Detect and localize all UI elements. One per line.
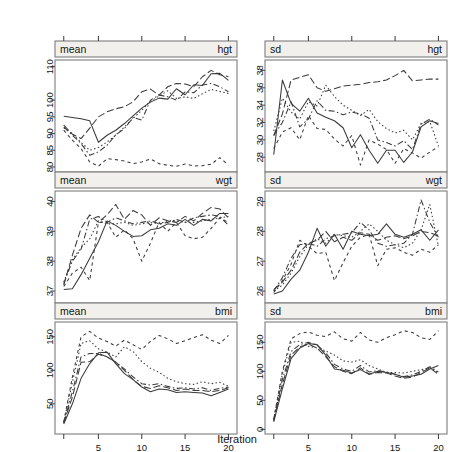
strip-label-left-mean-hgt: mean (60, 43, 86, 55)
ytick-label-sd-bmi-1: 50 (254, 395, 265, 406)
panel-mean-wgt: meanwgt37383940 (44, 172, 237, 303)
xtick-label-sd-bmi-2: 15 (390, 442, 401, 452)
ytick-label-mean-hgt-1: 85 (44, 145, 55, 156)
xtick-label-mean-bmi-1: 10 (136, 442, 147, 452)
ytick-label-mean-wgt-1: 38 (44, 256, 55, 267)
ytick-label-mean-wgt-2: 39 (44, 226, 55, 237)
xtick-label-sd-bmi-0: 5 (306, 442, 311, 452)
strip-label-left-mean-wgt: mean (60, 174, 86, 186)
ytick-label-sd-wgt-3: 29 (254, 196, 265, 207)
panel-mean-bmi: meanbmi501001505101520 (44, 303, 237, 452)
panel-sd-wgt: sdwgt26272829 (254, 172, 447, 303)
trellis-figure: meanhgt80859095100110sdhgt283032343638me… (0, 0, 474, 452)
ytick-label-mean-hgt-5: 110 (44, 59, 55, 74)
strip-label-right-mean-bmi: bmi (215, 305, 232, 317)
strip-header-sd-wgt (265, 172, 447, 188)
panel-sd-hgt: sdhgt283032343638 (254, 36, 447, 172)
ytick-label-mean-wgt-0: 37 (44, 286, 55, 297)
strip-label-left-sd-wgt: sd (270, 174, 281, 186)
panel-frame-mean-bmi (55, 322, 237, 434)
ytick-label-sd-wgt-1: 27 (254, 256, 265, 267)
ytick-label-sd-hgt-2: 32 (254, 117, 265, 128)
panel-frame-mean-hgt (55, 60, 237, 172)
ytick-label-mean-hgt-4: 100 (44, 92, 55, 108)
ytick-label-sd-bmi-2: 100 (254, 363, 265, 379)
ytick-label-sd-wgt-0: 26 (254, 286, 265, 297)
panel-frame-sd-hgt (265, 60, 447, 172)
strip-header-sd-bmi (265, 303, 447, 319)
strip-label-right-sd-wgt: wgt (425, 174, 442, 186)
strip-label-left-sd-bmi: sd (270, 305, 281, 317)
ytick-label-mean-wgt-3: 40 (44, 196, 55, 207)
panel-sd-bmi: sdbmi0501001505101520 (254, 303, 447, 452)
ytick-label-mean-hgt-2: 90 (44, 128, 55, 139)
ytick-label-mean-bmi-1: 100 (44, 362, 55, 378)
strip-header-sd-hgt (265, 41, 447, 57)
xtick-label-sd-bmi-1: 10 (346, 442, 357, 452)
ytick-label-sd-bmi-3: 150 (254, 334, 265, 350)
ytick-label-sd-hgt-3: 34 (254, 100, 265, 111)
xtick-label-sd-bmi-3: 20 (433, 442, 444, 452)
strip-label-right-sd-bmi: bmi (425, 305, 442, 317)
ytick-label-sd-hgt-4: 36 (254, 82, 265, 93)
ytick-label-sd-hgt-5: 38 (254, 65, 265, 76)
panel-frame-sd-wgt (265, 191, 447, 303)
strip-label-right-sd-hgt: hgt (427, 43, 442, 55)
strip-label-right-mean-wgt: wgt (215, 174, 232, 186)
ytick-label-mean-hgt-0: 80 (44, 162, 55, 173)
ytick-label-sd-bmi-0: 0 (254, 427, 265, 432)
ytick-label-sd-wgt-2: 28 (254, 226, 265, 237)
x-axis-title: Iteration (217, 433, 257, 445)
strip-label-left-sd-hgt: sd (270, 43, 281, 55)
ytick-label-sd-hgt-1: 30 (254, 135, 265, 146)
convergence-plot-svg: meanhgt80859095100110sdhgt283032343638me… (0, 0, 474, 452)
xtick-label-mean-bmi-2: 15 (180, 442, 191, 452)
panel-frame-sd-bmi (265, 322, 447, 434)
strip-label-right-mean-hgt: hgt (217, 43, 232, 55)
ytick-label-mean-bmi-2: 150 (44, 329, 55, 345)
panel-mean-hgt: meanhgt80859095100110 (44, 36, 237, 172)
ytick-label-mean-hgt-3: 95 (44, 112, 55, 123)
xtick-label-mean-bmi-0: 5 (96, 442, 101, 452)
ytick-label-sd-hgt-0: 28 (254, 152, 265, 163)
ytick-label-mean-bmi-0: 50 (44, 399, 55, 410)
strip-label-left-mean-bmi: mean (60, 305, 86, 317)
